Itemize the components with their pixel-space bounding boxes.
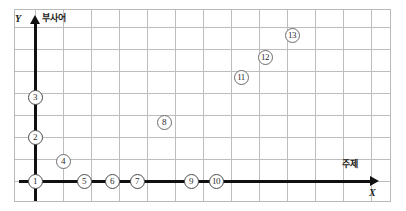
y-axis-name-label: 부사어 — [42, 14, 66, 23]
y-axis-arrow-icon — [30, 15, 40, 24]
data-point-9[interactable]: 9 — [184, 174, 199, 189]
data-point-7[interactable]: 7 — [130, 174, 145, 189]
data-point-2[interactable]: 2 — [28, 130, 43, 145]
graph-figure-frame: Y 부사어 주제 X 12345678910111213 — [14, 9, 391, 202]
y-axis-letter-label: Y — [15, 14, 21, 24]
data-point-5[interactable]: 5 — [77, 174, 92, 189]
data-point-6[interactable]: 6 — [105, 174, 120, 189]
data-point-8[interactable]: 8 — [157, 115, 172, 130]
x-axis-name-label: 주제 — [342, 160, 358, 169]
axis-layer — [15, 10, 390, 201]
x-axis-letter-label: X — [369, 188, 376, 198]
data-point-13[interactable]: 13 — [285, 28, 300, 43]
data-point-3[interactable]: 3 — [28, 90, 43, 105]
data-point-12[interactable]: 12 — [258, 50, 273, 65]
data-point-1[interactable]: 1 — [28, 174, 43, 189]
x-axis-arrow-icon — [370, 176, 379, 186]
data-point-11[interactable]: 11 — [234, 70, 249, 85]
data-point-4[interactable]: 4 — [56, 154, 71, 169]
screenshot-root: Y 부사어 주제 X 12345678910111213 — [0, 0, 406, 211]
data-point-10[interactable]: 10 — [209, 174, 224, 189]
